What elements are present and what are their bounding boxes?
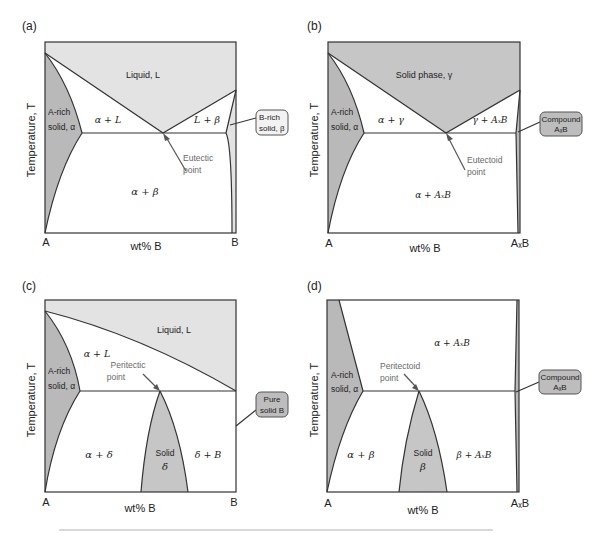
- x-left-label: A: [42, 236, 50, 248]
- callout-label: solid, β: [259, 124, 285, 133]
- callout-label: AₓB: [553, 383, 566, 392]
- x-left-label: A: [42, 496, 50, 508]
- region-label: Solid: [414, 448, 433, 458]
- region-label: Liquid, L: [157, 325, 191, 335]
- x-axis-label: wt% B: [408, 242, 440, 254]
- region-label: α + β: [347, 449, 374, 460]
- peritectic-point-label: Peritectic: [111, 360, 147, 370]
- x-right-label: B: [230, 496, 237, 508]
- x-right-label: AₓB: [511, 497, 529, 509]
- region-label: Solid phase, γ: [396, 70, 453, 80]
- eutectic-point-label: Eutectic: [183, 153, 214, 163]
- y-axis-label: Temperature, T: [308, 103, 320, 178]
- y-axis-label: Temperature, T: [308, 363, 320, 438]
- region-label: Liquid, L: [126, 70, 160, 80]
- region-label: δ + B: [195, 449, 222, 460]
- region-label: α + β: [131, 186, 158, 197]
- alpha-label: A-rich: [331, 107, 353, 117]
- eutectic-point-label: point: [183, 165, 202, 175]
- panel-d: (d) α + AₓB A-rich solid, α Peritectoid …: [307, 279, 581, 516]
- panel-tag: (d): [307, 279, 322, 293]
- x-axis-label: wt% B: [129, 240, 161, 252]
- callout-label: B-rich: [259, 113, 280, 122]
- region-label: α + L: [95, 114, 122, 125]
- y-axis-label: Temperature, T: [25, 103, 37, 178]
- x-right-label: B: [231, 236, 238, 248]
- x-left-label: A: [324, 497, 332, 509]
- region-label: β + AₓB: [456, 450, 492, 460]
- callout-label: Compound: [541, 115, 580, 124]
- x-axis-label: wt% B: [406, 504, 438, 516]
- panel-tag: (c): [22, 279, 36, 293]
- alpha-label: A-rich: [331, 370, 353, 380]
- callout-label: AₓB: [554, 125, 567, 134]
- peritectic-point-label: point: [107, 372, 126, 382]
- phase-diagram-figure: (a) Liquid, L A-rich solid, α α + L L + …: [0, 0, 603, 537]
- panel-a: (a) Liquid, L A-rich solid, α α + L L + …: [22, 19, 288, 252]
- region-label: δ: [162, 461, 168, 472]
- alpha-label: A-rich: [48, 366, 70, 376]
- alpha-label: A-rich: [48, 107, 70, 117]
- panel-c: (c) Liquid, L A-rich solid, α α + L Peri…: [22, 279, 288, 514]
- alpha-label: solid, α: [331, 384, 358, 394]
- alpha-label: solid, α: [48, 122, 75, 132]
- peritectoid-point-label: point: [380, 373, 399, 383]
- x-axis-label: wt% B: [123, 502, 155, 514]
- region-label: α + γ: [378, 114, 404, 125]
- region-label: α + L: [84, 348, 111, 359]
- region-label: Solid: [156, 448, 175, 458]
- alpha-label: solid, α: [331, 122, 358, 132]
- region-label: α + AₓB: [434, 338, 470, 348]
- region-label: α + AₓB: [415, 190, 451, 200]
- region-label: γ + AₓB: [473, 115, 508, 125]
- region-label: α + δ: [85, 449, 113, 460]
- x-left-label: A: [325, 237, 333, 249]
- panel-b: (b) Solid phase, γ A-rich solid, α α + γ…: [307, 19, 582, 254]
- x-right-label: AₓB: [511, 237, 529, 249]
- eutectoid-point-label: Eutectoid: [467, 155, 503, 165]
- region-label: β: [419, 461, 426, 472]
- panel-tag: (a): [22, 19, 37, 33]
- callout-label: solid B: [260, 406, 284, 415]
- alpha-label: solid, α: [48, 381, 75, 391]
- peritectoid-point-label: Peritectoid: [380, 361, 420, 371]
- region-label: L + β: [193, 114, 220, 125]
- callout-label: Pure: [264, 395, 281, 404]
- y-axis-label: Temperature, T: [25, 363, 37, 438]
- panel-tag: (b): [307, 19, 322, 33]
- callout-label: Compound: [540, 373, 579, 382]
- eutectoid-point-label: point: [467, 167, 486, 177]
